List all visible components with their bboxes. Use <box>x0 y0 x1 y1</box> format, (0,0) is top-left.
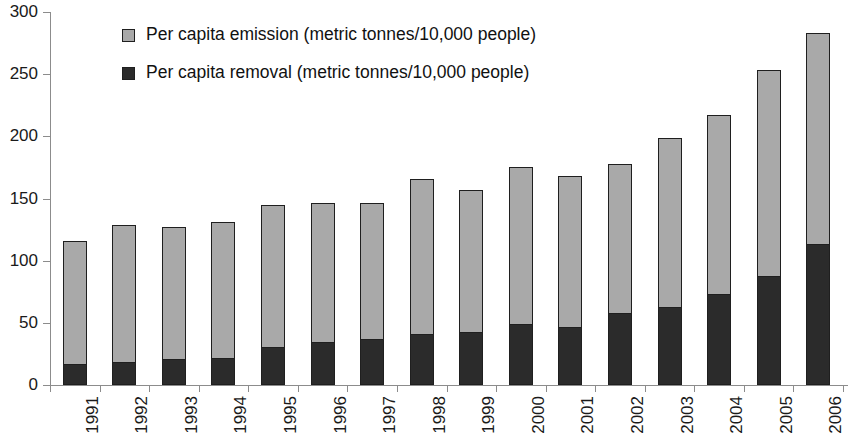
bar-1999 <box>459 190 483 385</box>
x-tick <box>248 385 249 392</box>
bar-segment-removal <box>64 364 86 384</box>
y-tick-label: 100 <box>0 252 38 269</box>
bar-1991 <box>63 241 87 385</box>
x-tick-label-2004: 2004 <box>727 396 747 434</box>
bar-segment-removal <box>262 347 284 384</box>
y-tick-label: 250 <box>0 65 38 82</box>
y-tick-label: 0 <box>0 376 38 393</box>
x-tick <box>397 385 398 392</box>
x-tick-label-1994: 1994 <box>231 396 251 434</box>
bar-segment-removal <box>510 324 532 384</box>
bar-2002 <box>608 164 632 385</box>
x-tick-label-2003: 2003 <box>678 396 698 434</box>
x-tick <box>843 385 844 392</box>
bar-1993 <box>162 227 186 385</box>
bar-2000 <box>509 167 533 385</box>
bar-segment-removal <box>163 359 185 384</box>
x-tick <box>50 385 51 392</box>
bar-1995 <box>261 205 285 385</box>
y-tick-label: 200 <box>0 127 38 144</box>
bar-segment-removal <box>559 327 581 384</box>
bar-1994 <box>211 222 235 385</box>
bar-segment-removal <box>460 332 482 384</box>
x-tick <box>744 385 745 392</box>
x-tick <box>496 385 497 392</box>
x-tick <box>645 385 646 392</box>
x-tick <box>100 385 101 392</box>
bar-segment-removal <box>609 313 631 384</box>
bar-1998 <box>410 179 434 385</box>
x-tick <box>149 385 150 392</box>
x-axis-line <box>43 385 848 386</box>
bar-segment-removal <box>807 244 829 384</box>
x-tick-label-1996: 1996 <box>331 396 351 434</box>
x-tick <box>298 385 299 392</box>
x-tick-label-1998: 1998 <box>430 396 450 434</box>
bar-segment-removal <box>113 362 135 384</box>
x-tick-label-1992: 1992 <box>132 396 152 434</box>
bar-2003 <box>658 138 682 385</box>
bar-segment-removal <box>659 307 681 384</box>
y-tick-label: 300 <box>0 3 38 20</box>
x-tick <box>447 385 448 392</box>
x-tick <box>694 385 695 392</box>
bar-2006 <box>806 33 830 385</box>
bar-2001 <box>558 176 582 385</box>
x-tick-label-2000: 2000 <box>529 396 549 434</box>
y-tick-label: 50 <box>0 314 38 331</box>
x-tick-label-2005: 2005 <box>777 396 797 434</box>
bar-segment-removal <box>361 339 383 384</box>
bar-segment-removal <box>212 358 234 384</box>
x-tick-label-1999: 1999 <box>479 396 499 434</box>
x-tick <box>199 385 200 392</box>
x-tick <box>347 385 348 392</box>
bar-segment-removal <box>758 276 780 384</box>
bar-1997 <box>360 203 384 385</box>
bar-segment-removal <box>312 342 334 384</box>
x-tick-label-1997: 1997 <box>380 396 400 434</box>
x-tick <box>595 385 596 392</box>
x-tick-label-1993: 1993 <box>182 396 202 434</box>
bar-segment-removal <box>708 294 730 384</box>
x-tick-label-1991: 1991 <box>83 396 103 434</box>
x-tick-label-2006: 2006 <box>826 396 846 434</box>
x-tick-label-2002: 2002 <box>628 396 648 434</box>
bar-1996 <box>311 203 335 385</box>
bar-2004 <box>707 115 731 385</box>
x-tick <box>793 385 794 392</box>
x-tick <box>546 385 547 392</box>
bar-1992 <box>112 225 136 385</box>
plot-area <box>50 12 843 385</box>
x-tick-label-2001: 2001 <box>578 396 598 434</box>
stacked-bar-chart: Per capita emission (metric tonnes/10,00… <box>0 0 850 442</box>
y-tick-label: 150 <box>0 190 38 207</box>
bar-segment-removal <box>411 334 433 384</box>
x-tick-label-1995: 1995 <box>281 396 301 434</box>
bar-2005 <box>757 70 781 385</box>
